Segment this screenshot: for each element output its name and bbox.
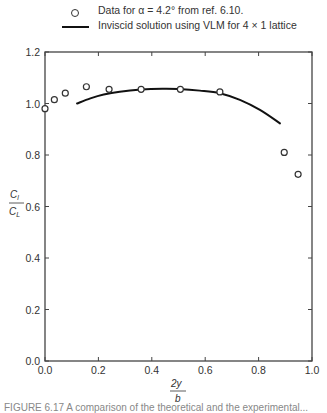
y-tick-label: 0.4 <box>25 252 40 264</box>
y-tick-label: 1.0 <box>25 98 40 110</box>
vlm-curve <box>77 89 280 124</box>
figure-caption: FIGURE 6.17 A comparison of the theoreti… <box>4 402 308 413</box>
y-label-denominator: CL <box>9 206 20 218</box>
x-axis-label: 2y b <box>170 378 186 404</box>
data-point-circle-icon <box>51 97 57 103</box>
x-tick-label: 0.6 <box>198 364 213 376</box>
y-tick-label: 0.8 <box>25 149 40 161</box>
y-tick-label: 0.6 <box>25 201 40 213</box>
axis-ticks: 0.00.20.40.60.81.00.00.20.40.60.81.01.2 <box>25 46 319 376</box>
data-point-circle-icon <box>217 89 223 95</box>
data-point-circle-icon <box>295 171 301 177</box>
x-tick-label: 0.4 <box>144 364 159 376</box>
y-axis-label: Cl CL <box>9 189 24 218</box>
data-point-circle-icon <box>62 90 68 96</box>
x-label-numerator: 2y <box>170 378 183 389</box>
y-label-numerator: Cl <box>10 189 19 201</box>
data-point-circle-icon <box>106 86 112 92</box>
data-points <box>42 84 301 178</box>
plot-frame <box>45 52 312 361</box>
y-tick-label: 0.0 <box>25 355 40 367</box>
x-tick-label: 0.8 <box>251 364 266 376</box>
data-point-circle-icon <box>83 84 89 90</box>
x-tick-label: 1.0 <box>305 364 320 376</box>
data-point-circle-icon <box>42 106 48 112</box>
data-point-circle-icon <box>177 86 183 92</box>
data-point-circle-icon <box>281 149 287 155</box>
x-tick-label: 0.2 <box>91 364 106 376</box>
y-tick-label: 0.2 <box>25 304 40 316</box>
data-point-circle-icon <box>138 86 144 92</box>
y-tick-label: 1.2 <box>25 46 40 58</box>
